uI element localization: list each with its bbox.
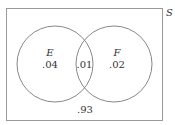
venn-diagram: S E .04 .01 F .02 .93: [0, 0, 175, 125]
set-f-label: F: [113, 47, 122, 58]
universe-label: S: [166, 7, 173, 18]
set-e-label: E: [45, 47, 54, 58]
set-f-only-value: .02: [109, 59, 125, 70]
outside-value: .93: [77, 104, 93, 115]
set-e-only-value: .04: [42, 59, 58, 70]
intersection-value: .01: [77, 59, 93, 70]
